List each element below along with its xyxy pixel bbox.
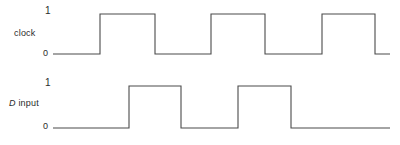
d-input-axis-tick-high: 1 xyxy=(45,77,51,88)
clock-signal-label: clock xyxy=(14,28,36,38)
clock-axis-tick-low: 0 xyxy=(43,48,48,58)
timing-diagram: clock D input 1 0 1 0 xyxy=(0,0,400,145)
d-input-signal-label: D input xyxy=(9,98,39,108)
clock-signal-label-text: clock xyxy=(14,28,36,38)
d-input-axis-tick-low: 0 xyxy=(43,121,48,131)
clock-axis-tick-high: 1 xyxy=(45,5,51,16)
clock-waveform-path xyxy=(53,14,390,54)
d-input-waveform-path xyxy=(53,86,390,128)
waveform-canvas xyxy=(0,0,400,145)
d-input-label-text: input xyxy=(16,98,39,108)
d-input-label-prefix: D xyxy=(9,98,16,108)
